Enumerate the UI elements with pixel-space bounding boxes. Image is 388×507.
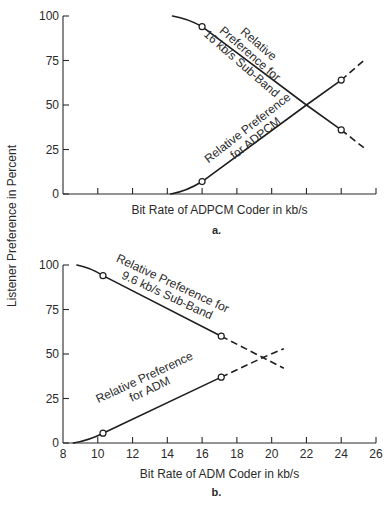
data-point-marker [338, 127, 344, 133]
curve-label: RelativePreference for16 kb/s Sub-Band [201, 7, 299, 100]
x-tick-label: 22 [300, 447, 314, 461]
x-tick-label: 20 [265, 447, 279, 461]
x-tick-label: 8 [60, 447, 67, 461]
data-point-marker [199, 179, 205, 185]
y-tick-label: 0 [52, 187, 59, 201]
x-tick-label: 16 [195, 447, 209, 461]
y-tick-label: 25 [46, 392, 60, 406]
panel-label: b. [212, 486, 222, 498]
x-tick-label: 24 [335, 447, 349, 461]
data-point-marker [100, 430, 106, 436]
series-0: Relative Preference for9.6 kb/s Sub-Band [77, 251, 284, 368]
x-tick-label: 10 [91, 447, 105, 461]
data-point-marker [199, 24, 205, 30]
curve-label: Relative Preferencefor ADM [94, 349, 201, 418]
chart-panel-b: 02550751008101214161820222426Bit Rate of… [39, 251, 383, 498]
chart-panel-a: 0255075100Bit Rate of ADPCM Coder in kb/… [39, 7, 376, 236]
y-tick-label: 75 [46, 54, 60, 68]
curve-dashed-extrapolation [341, 130, 364, 148]
data-point-marker [218, 333, 224, 339]
x-axis-title: Bit Rate of ADM Coder in kb/s [140, 467, 299, 481]
data-point-marker [100, 273, 106, 279]
x-tick-label: 26 [369, 447, 383, 461]
y-axis-title: Listener Preference in Percent [5, 144, 19, 307]
panel-label: a. [212, 224, 221, 236]
y-tick-label: 25 [46, 143, 60, 157]
chart-figure: Listener Preference in Percent 025507510… [0, 0, 388, 507]
y-tick-label: 50 [46, 98, 60, 112]
y-tick-label: 50 [46, 347, 60, 361]
curve-label: Relative Preference for9.6 kb/s Sub-Band [109, 251, 232, 327]
y-tick-label: 0 [52, 436, 59, 450]
data-point-marker [338, 77, 344, 83]
curve-label: Relative Preferencefor ADPCM [202, 90, 302, 176]
figure: Listener Preference in Percent 025507510… [0, 0, 388, 507]
x-tick-label: 14 [161, 447, 175, 461]
y-tick-label: 75 [46, 303, 60, 317]
data-point-marker [218, 374, 224, 380]
curve-dashed-extrapolation [341, 61, 364, 81]
series-1: Relative Preferencefor ADM [73, 349, 283, 443]
x-tick-label: 18 [230, 447, 244, 461]
y-tick-label: 100 [39, 9, 59, 23]
y-tick-label: 100 [39, 258, 59, 272]
x-tick-label: 12 [126, 447, 140, 461]
x-axis-title: Bit Rate of ADPCM Coder in kb/s [131, 203, 307, 217]
